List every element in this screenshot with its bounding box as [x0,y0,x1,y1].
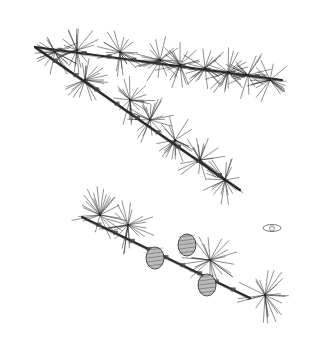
larch-illustration [0,0,329,357]
larch-branch-drawing [0,0,329,357]
